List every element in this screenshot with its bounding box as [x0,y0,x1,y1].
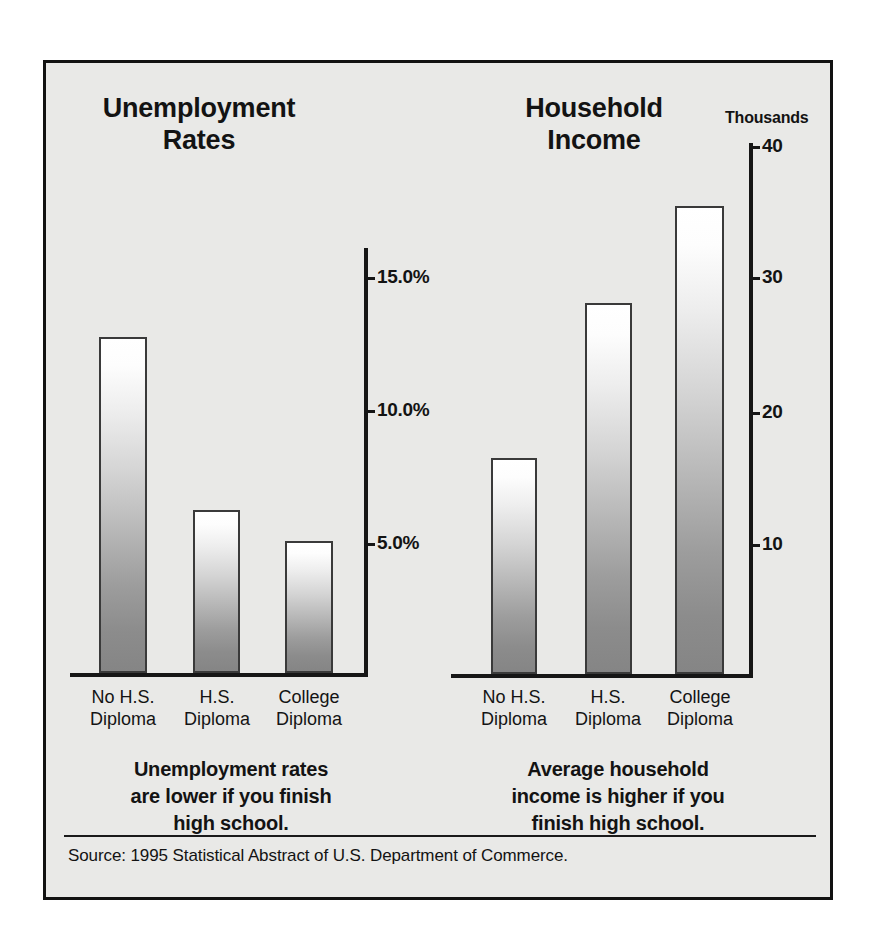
x-category-line1: H.S. [561,687,655,709]
caption-income: Average household income is higher if yo… [453,756,783,837]
y-tick-mark-10 [749,544,760,547]
y-tick-label-15: 15.0% [377,266,429,288]
y-tick-label-10: 10.0% [377,399,429,421]
y-tick-mark-15 [364,277,375,280]
y-tick-label-30: 30 [762,266,783,288]
y-tick-mark-20 [749,412,760,415]
y-tick-label-10: 10 [762,533,783,555]
bar-income-no-hs-diploma [491,458,537,674]
x-axis-baseline-unemployment [70,673,366,677]
bar-unemployment-college-diploma [285,541,333,673]
bar-income-college-diploma [675,206,724,674]
caption-line3: finish high school. [453,810,783,837]
x-category-line2: Diploma [653,709,747,731]
x-category-line2: Diploma [467,709,561,731]
x-category-label-college-diploma: College Diploma [262,687,356,730]
y-axis-line-income [749,143,753,677]
x-category-label-no-hs-diploma: No H.S. Diploma [467,687,561,730]
bar-income-hs-diploma [585,303,632,674]
y-tick-label-40: 40 [762,135,783,157]
x-category-line2: Diploma [262,709,356,731]
x-category-label-hs-diploma: H.S. Diploma [561,687,655,730]
caption-line1: Average household [453,756,783,783]
panel-household-income: Household Income Thousands 40 30 20 10 N… [431,63,816,897]
x-category-label-hs-diploma: H.S. Diploma [170,687,264,730]
bar-unemployment-no-hs-diploma [99,337,147,673]
chart-figure-frame: Unemployment Rates 15.0% 10.0% 5.0% No H… [43,60,833,900]
y-tick-mark-5 [364,543,375,546]
x-category-label-no-hs-diploma: No H.S. Diploma [76,687,170,730]
caption-unemployment: Unemployment rates are lower if you fini… [66,756,396,837]
x-category-line1: College [653,687,747,709]
source-divider [64,835,816,837]
x-category-line1: No H.S. [467,687,561,709]
caption-line2: are lower if you finish [66,783,396,810]
y-tick-label-20: 20 [762,401,783,423]
x-category-line2: Diploma [561,709,655,731]
caption-line3: high school. [66,810,396,837]
x-category-line1: No H.S. [76,687,170,709]
caption-line2: income is higher if you [453,783,783,810]
x-axis-baseline-income [451,674,753,678]
y-tick-label-5: 5.0% [377,532,419,554]
x-category-line2: Diploma [170,709,264,731]
y-axis-line-unemployment [364,248,368,677]
panel-unemployment-rates: Unemployment Rates 15.0% 10.0% 5.0% No H… [46,63,431,897]
caption-line1: Unemployment rates [66,756,396,783]
x-category-line1: H.S. [170,687,264,709]
y-tick-mark-10 [364,410,375,413]
bar-unemployment-hs-diploma [193,510,240,673]
y-tick-mark-30 [749,277,760,280]
x-category-line1: College [262,687,356,709]
x-category-label-college-diploma: College Diploma [653,687,747,730]
y-tick-mark-40 [749,146,760,149]
source-note: Source: 1995 Statistical Abstract of U.S… [68,846,568,866]
x-category-line2: Diploma [76,709,170,731]
